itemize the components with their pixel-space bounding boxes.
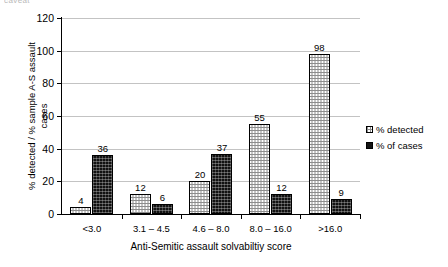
legend-item: % of cases bbox=[366, 140, 424, 151]
x-axis-tick bbox=[181, 214, 182, 219]
bar-value-label: 6 bbox=[160, 192, 165, 203]
legend-label: % of cases bbox=[376, 140, 422, 151]
bar-cases: 9 bbox=[331, 199, 352, 214]
plot-area: 020406080100120 43612620375512989 <3.03.… bbox=[62, 18, 360, 214]
bar-detected: 4 bbox=[70, 207, 91, 214]
clipped-header-artifact: caveat bbox=[4, 0, 30, 3]
y-axis-tick-label: 100 bbox=[24, 45, 54, 57]
x-axis-category-label: >16.0 bbox=[318, 223, 342, 234]
x-axis-category-label: 4.6 – 8.0 bbox=[193, 223, 230, 234]
bar-value-label: 98 bbox=[314, 42, 325, 53]
bar-value-label: 55 bbox=[254, 112, 265, 123]
bar-group: 5512 bbox=[241, 18, 301, 214]
x-axis-tick bbox=[241, 214, 242, 219]
x-axis-category-label: 3.1 – 4.5 bbox=[133, 223, 170, 234]
legend-swatch-icon bbox=[366, 142, 373, 149]
chart-legend: % detected% of cases bbox=[366, 124, 424, 156]
y-axis-tick-label: 60 bbox=[24, 110, 54, 122]
legend-swatch-icon bbox=[366, 126, 373, 133]
legend-label: % detected bbox=[376, 124, 424, 135]
bar-value-label: 36 bbox=[98, 143, 109, 154]
y-axis-tick-label: 20 bbox=[24, 175, 54, 187]
x-axis-tick bbox=[360, 214, 361, 219]
bar-cases: 12 bbox=[271, 194, 292, 214]
bar-value-label: 9 bbox=[339, 187, 344, 198]
x-axis-title: Anti-Semitic assault solvabiltiy score bbox=[62, 241, 360, 252]
bar-value-label: 12 bbox=[276, 182, 287, 193]
legend-item: % detected bbox=[366, 124, 424, 135]
bar-cases: 36 bbox=[92, 155, 113, 214]
x-axis-tick bbox=[122, 214, 123, 219]
bar-detected: 55 bbox=[249, 124, 270, 214]
bar-cases: 6 bbox=[152, 204, 173, 214]
bar-group: 2037 bbox=[181, 18, 241, 214]
y-axis-tick-label: 80 bbox=[24, 77, 54, 89]
bar-value-label: 20 bbox=[195, 169, 206, 180]
y-axis-tick-label: 120 bbox=[24, 12, 54, 24]
bar-group: 989 bbox=[300, 18, 360, 214]
y-axis-tick-label: 40 bbox=[24, 143, 54, 155]
chart-figure: caveat % detected / % sample A-S assault… bbox=[0, 0, 448, 267]
x-axis-category-label: 8.0 – 16.0 bbox=[249, 223, 291, 234]
x-axis-category-label: <3.0 bbox=[82, 223, 101, 234]
x-axis-line bbox=[61, 214, 361, 215]
bar-detected: 12 bbox=[130, 194, 151, 214]
bar-value-label: 12 bbox=[135, 182, 146, 193]
bar-group: 436 bbox=[62, 18, 122, 214]
bar-value-label: 4 bbox=[78, 195, 83, 206]
bar-value-label: 37 bbox=[217, 142, 228, 153]
bar-cases: 37 bbox=[211, 154, 232, 214]
x-axis-tick bbox=[300, 214, 301, 219]
y-axis-tick-label: 0 bbox=[24, 208, 54, 220]
bar-detected: 20 bbox=[189, 181, 210, 214]
bar-group: 126 bbox=[122, 18, 182, 214]
bar-detected: 98 bbox=[309, 54, 330, 214]
